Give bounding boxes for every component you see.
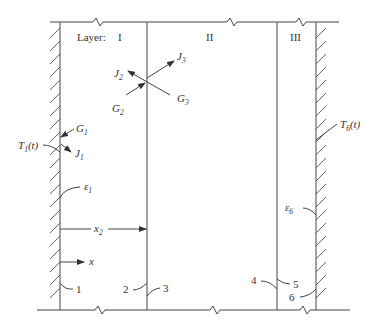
surface-4-label: 4 [251,274,257,286]
eps1-leader [60,187,80,198]
surface-2-label: 2 [123,283,129,295]
layer-III-label: III [290,31,301,43]
surface-6-label: 6 [289,291,295,303]
G2-label: G2 [112,102,124,117]
layer-heading: Layer: [77,31,106,43]
surface-2-leader [133,283,147,290]
left-wall-hatching [50,28,60,298]
G3-J2-arrow [128,71,170,95]
surface-1-leader [60,283,73,289]
J3-arrow [147,61,174,78]
surface-4-leader [261,281,277,289]
interface-flux-arrows [126,61,174,95]
surface-5-label: 5 [293,278,299,290]
J1-label: J1 [75,147,84,162]
J2-label: J2 [114,67,123,82]
surface-5-leader [277,279,290,284]
x2-label: x2 [93,222,103,237]
layer-II-label: II [206,31,214,43]
bottom-boundary-line [37,306,350,314]
G2-arrow [126,83,145,95]
top-boundary-line [50,18,339,26]
eps1-label: ε1 [84,180,92,195]
surface-1-label: 1 [76,283,82,295]
G1-arrow [61,129,74,137]
surface-3-label: 3 [163,282,169,294]
eps6-leader [303,208,316,215]
T6-label: T6(t) [340,118,361,133]
x-axis-label: x [88,255,94,267]
eps6-label: ε6 [285,201,293,216]
J3-label: J3 [177,50,186,65]
layered-slab-diagram: Layer: I II III J2 J3 G2 G3 G1 J1 T1(t) … [0,0,381,328]
J1-arrow [61,144,71,152]
G3-label: G3 [177,92,189,107]
right-wall-hatching [316,28,326,298]
T1-leader [43,145,60,152]
G1-label: G1 [76,122,88,137]
layer-I-label: I [118,31,122,43]
surface-6-leader [300,289,316,297]
T1-label: T1(t) [18,139,39,154]
surface-3-leader [147,288,160,296]
